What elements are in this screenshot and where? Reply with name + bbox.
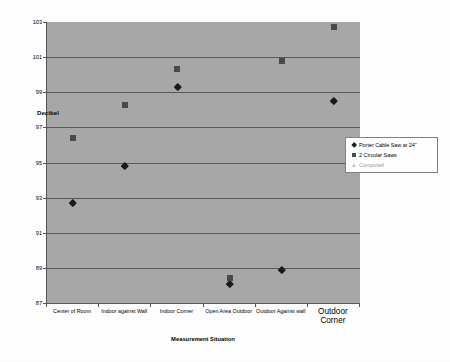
x-axis-title: Measurement Situation [46, 336, 360, 342]
gridline [47, 233, 360, 234]
x-tick-mark [98, 303, 99, 307]
x-tick-label: Indoor against Wall [98, 308, 150, 316]
x-tick-label: Open Area Outdoor [203, 308, 255, 316]
x-tick-mark [46, 303, 47, 307]
gridline [47, 57, 360, 58]
data-point-diamond [330, 97, 338, 105]
x-tick-label: Outdoor Against wall [255, 308, 307, 316]
gridline [47, 163, 360, 164]
legend-item[interactable]: Porter Cable Saw at 24" [348, 140, 435, 150]
y-tick-label: 103 [18, 19, 42, 25]
y-axis-title: Decibel [37, 110, 59, 116]
data-point-diamond [69, 199, 77, 207]
y-tick-label: 87 [18, 300, 42, 306]
data-point-diamond [278, 266, 286, 274]
x-tick-label: Outdoor Corner [307, 307, 359, 325]
y-tick-label: 99 [18, 89, 42, 95]
legend-label: 2 Circular Saws [358, 152, 397, 158]
data-point-square [122, 102, 128, 108]
legend-label: Computed [358, 162, 384, 168]
plot-area [46, 22, 360, 304]
data-point-square [279, 58, 285, 64]
y-tick-label: 97 [18, 124, 42, 130]
y-tick-label: 93 [18, 195, 42, 201]
y-tick-label: 91 [18, 230, 42, 236]
data-point-square [174, 66, 180, 72]
chart-legend: Porter Cable Saw at 24"2 Circular SawsCo… [345, 137, 438, 173]
data-point-square [227, 275, 233, 281]
y-tick-label: 95 [18, 160, 42, 166]
x-tick-mark [150, 303, 151, 307]
x-tick-mark [255, 303, 256, 307]
y-tick-label: 101 [18, 54, 42, 60]
square-marker-icon [350, 153, 358, 158]
legend-item[interactable]: Computed [348, 160, 435, 170]
gridline [47, 198, 360, 199]
x-tick-mark [203, 303, 204, 307]
x-tick-label: Indoor Corner [150, 308, 202, 316]
gridline [47, 127, 360, 128]
gridline [47, 92, 360, 93]
diamond-marker-icon [350, 143, 358, 147]
legend-item[interactable]: 2 Circular Saws [348, 150, 435, 160]
data-point-diamond [173, 83, 181, 91]
x-tick-mark [359, 303, 360, 307]
scatter-chart: 10310199979593918987 Decibel Center of R… [0, 0, 450, 362]
data-point-square [70, 135, 76, 141]
triangle-marker-icon [350, 163, 358, 167]
gridline [47, 268, 360, 269]
data-point-square [331, 24, 337, 30]
y-tick-label: 89 [18, 265, 42, 271]
legend-label: Porter Cable Saw at 24" [358, 142, 417, 148]
x-tick-label: Center of Room [46, 308, 98, 316]
